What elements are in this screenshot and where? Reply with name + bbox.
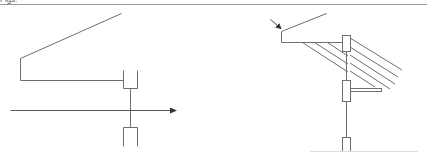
right-bottom-block (343, 138, 351, 153)
right-upper-cap (343, 36, 351, 52)
left-figure (11, 14, 177, 147)
right-side-arm (351, 89, 382, 92)
right-bracket-frame (282, 32, 343, 43)
right-inclined-line (282, 14, 327, 32)
left-upper-cup (124, 71, 138, 89)
right-pointer-arrow (271, 20, 282, 29)
left-bracket-frame (21, 59, 124, 81)
right-hatch-lines (303, 38, 403, 89)
right-side-block (343, 81, 351, 102)
left-lower-cup (124, 128, 138, 147)
diagram-canvas (0, 0, 427, 152)
right-figure (271, 14, 419, 153)
left-inclined-line (21, 14, 122, 59)
